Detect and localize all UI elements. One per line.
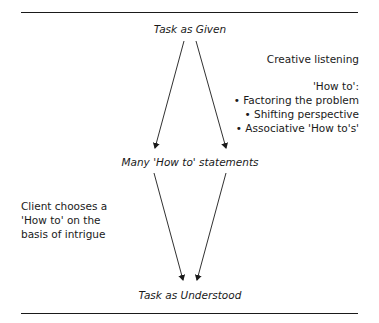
arrow-top-left [155,41,184,148]
arrow-bottom-right [197,173,226,280]
diverge-converge-diagram: Task as Given Creative listening 'How to… [0,0,379,323]
arrow-bottom-left [154,173,183,280]
arrows-layer [0,0,379,323]
arrow-top-right [196,41,226,148]
